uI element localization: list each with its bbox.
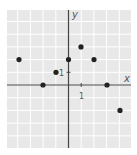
data-point [53,70,58,75]
x-tick-label: 1 [79,92,84,101]
data-point [78,44,83,49]
data-point [117,108,122,113]
x-axis-label: x [123,73,130,84]
data-point [91,57,96,62]
data-point [16,57,21,62]
y-tick-label: 1 [59,69,64,78]
data-point [104,82,109,87]
scatter-plot: x y 1 1 [0,0,137,155]
y-axis-label: y [71,9,79,20]
data-point [66,57,71,62]
data-point [40,82,45,87]
